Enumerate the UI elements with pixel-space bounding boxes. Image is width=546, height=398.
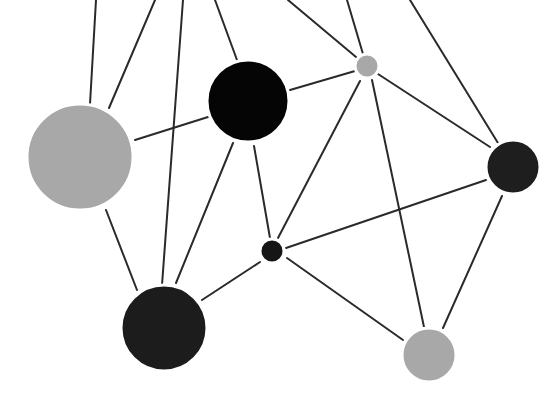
node-gray-large	[27, 104, 133, 210]
network-graph-svg	[0, 0, 546, 398]
node-dark-right	[486, 140, 540, 194]
edge-line	[443, 196, 502, 328]
edge-line	[410, 0, 498, 143]
edge-line	[378, 74, 490, 147]
edge-line	[287, 258, 403, 340]
edge-line	[109, 0, 155, 108]
nodes-group	[27, 54, 540, 382]
edge-line	[347, 0, 363, 54]
node-dark-small-center	[260, 239, 284, 263]
edge-line	[215, 0, 237, 60]
node-gray-bottom-right	[402, 328, 456, 382]
edge-line	[162, 0, 183, 285]
edge-line	[106, 210, 137, 290]
edge-line	[254, 146, 270, 238]
edge-line	[202, 262, 260, 300]
edge-line	[176, 143, 233, 283]
network-diagram	[0, 0, 546, 398]
edge-line	[286, 180, 486, 248]
node-gray-small-top	[355, 54, 379, 78]
edge-line	[290, 71, 355, 90]
node-black-top	[207, 60, 289, 142]
node-dark-bottom-left	[121, 285, 207, 371]
edge-line	[288, 0, 356, 57]
edge-line	[135, 117, 208, 140]
edge-line	[90, 0, 96, 104]
